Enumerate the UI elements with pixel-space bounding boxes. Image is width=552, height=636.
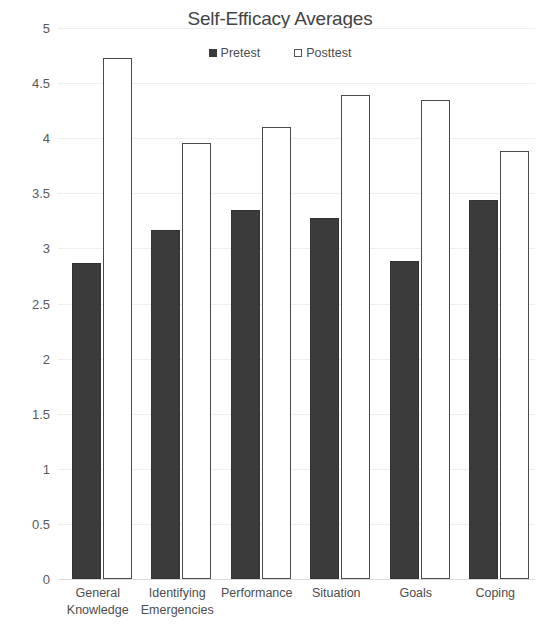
bar-group [231,28,291,579]
y-axis-tick-label: 4.5 [6,76,50,91]
bar-pretest [151,230,180,579]
bar-pretest [310,218,339,579]
bar-group [390,28,450,579]
bar-posttest [103,58,132,579]
bar-pretest [469,200,498,579]
bar-group [310,28,370,579]
y-axis-tick-label: 0 [6,572,50,587]
y-axis-tick-label: 1.5 [6,406,50,421]
y-axis-tick-label: 2 [6,351,50,366]
x-axis-category-label: General Knowledge [58,585,138,619]
x-axis-category-label: Goals [376,585,456,602]
chart-title: Self-Efficacy Averages [60,8,500,30]
x-axis-category-label: Situation [297,585,377,602]
bar-pretest [231,210,260,579]
bar-posttest [500,151,529,579]
bar-posttest [262,127,291,579]
bar-pretest [72,263,101,579]
bar-chart: Self-Efficacy Averages Pretest Posttest … [0,0,552,636]
x-axis-category-label: Performance [217,585,297,602]
y-axis: 54.543.532.521.510.50 [0,28,50,579]
x-axis: General KnowledgeIdentifying Emergencies… [58,585,535,633]
bar-group [72,28,132,579]
bar-posttest [182,143,211,579]
x-axis-category-label: Identifying Emergencies [138,585,218,619]
plot-area [58,28,535,579]
y-axis-tick-label: 3 [6,241,50,256]
bar-posttest [421,100,450,579]
y-axis-tick-label: 3.5 [6,186,50,201]
gridline [58,579,535,580]
y-axis-tick-label: 0.5 [6,516,50,531]
bar-group [469,28,529,579]
bar-posttest [341,95,370,579]
y-axis-tick-label: 2.5 [6,296,50,311]
bar-pretest [390,261,419,579]
y-axis-tick-label: 4 [6,131,50,146]
x-axis-category-label: Coping [456,585,536,602]
bar-group [151,28,211,579]
y-axis-tick-label: 5 [6,21,50,36]
y-axis-tick-label: 1 [6,461,50,476]
